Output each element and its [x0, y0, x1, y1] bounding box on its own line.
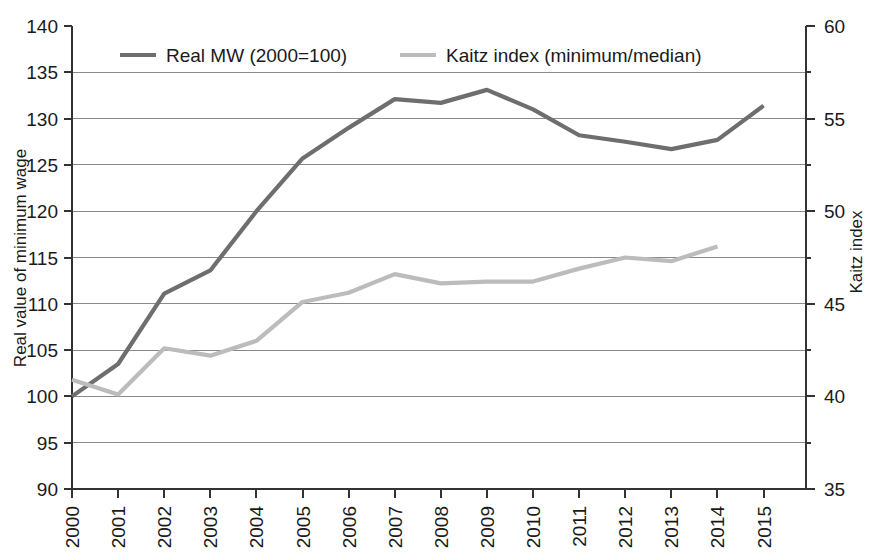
left-tick-label: 115 — [28, 248, 58, 269]
right-tick-label: 45 — [824, 294, 845, 315]
left-tick-label: 100 — [26, 386, 58, 407]
x-tick-label: 2001 — [108, 506, 129, 548]
gridlines-group — [72, 72, 806, 489]
x-tick-label: 2011 — [569, 506, 590, 547]
legend-label-kaitz-index: Kaitz index (minimum/median) — [446, 45, 702, 66]
x-tick-label: 2008 — [431, 506, 452, 548]
legend-label-real-mw: Real MW (2000=100) — [166, 45, 347, 66]
chart-figure: 9095100105110115120125130135140 35404550… — [0, 0, 876, 560]
left-tick-label: 135 — [26, 62, 58, 83]
left-tick-label: 110 — [28, 294, 58, 315]
x-tick-label: 2015 — [754, 506, 775, 548]
x-tick-label: 2010 — [523, 506, 544, 548]
left-axis-title: Real value of minimum wage — [11, 149, 30, 367]
x-tick-label: 2013 — [661, 506, 682, 548]
left-tick-label: 130 — [26, 109, 58, 130]
x-tick-label: 2006 — [339, 506, 360, 548]
x-tick-label: 2005 — [293, 506, 314, 548]
legend: Real MW (2000=100) Kaitz index (minimum/… — [120, 45, 702, 66]
line-chart-svg: 9095100105110115120125130135140 35404550… — [0, 0, 876, 560]
x-tick-label: 2003 — [200, 506, 221, 548]
right-tick-label: 60 — [824, 16, 845, 37]
x-axis: 2000200120022003200420052006200720082009… — [62, 489, 806, 548]
series-line-kaitz-index — [72, 246, 717, 394]
left-axis: 9095100105110115120125130135140 — [26, 16, 72, 500]
x-tick-label: 2000 — [62, 506, 83, 548]
right-tick-label: 50 — [824, 201, 845, 222]
left-tick-label: 95 — [37, 433, 58, 454]
left-tick-label: 140 — [26, 16, 58, 37]
left-tick-label: 90 — [37, 479, 58, 500]
x-tick-label: 2014 — [707, 506, 728, 549]
left-tick-label: 125 — [26, 155, 58, 176]
right-tick-label: 40 — [824, 386, 845, 407]
right-tick-label: 55 — [824, 109, 845, 130]
x-tick-label: 2002 — [154, 506, 175, 548]
x-tick-label: 2009 — [477, 506, 498, 548]
right-axis: 354045505560 — [806, 16, 845, 500]
left-tick-label: 105 — [26, 340, 58, 361]
right-tick-label: 35 — [824, 479, 845, 500]
x-tick-label: 2007 — [385, 506, 406, 548]
right-axis-title: Kaitz index — [847, 210, 866, 294]
x-tick-label: 2004 — [246, 506, 267, 549]
left-tick-label: 120 — [26, 201, 58, 222]
x-tick-label: 2012 — [615, 506, 636, 548]
